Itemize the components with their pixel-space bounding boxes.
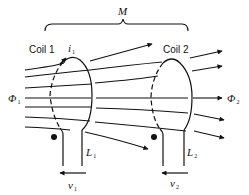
flux-lines bbox=[25, 44, 224, 149]
voltage-v2-label: v2 bbox=[170, 178, 179, 190]
mutual-inductance-label: M bbox=[118, 6, 127, 17]
diagram-graphics bbox=[0, 0, 249, 195]
mutual-brace bbox=[45, 19, 188, 31]
voltage-v1-label: v1 bbox=[68, 180, 77, 192]
coil-2-label: Coil 2 bbox=[163, 45, 189, 55]
polarity-dot-2 bbox=[151, 134, 157, 140]
mutual-inductance-diagram: M Coil 1 i1 Coil 2 Φ1 Φ2 L1 L2 v1 v2 bbox=[0, 0, 249, 195]
flux-phi1-label: Φ1 bbox=[8, 93, 20, 105]
current-i1-label: i1 bbox=[68, 43, 75, 55]
inductance-l2-label: L2 bbox=[187, 147, 197, 159]
polarity-dot-1 bbox=[51, 134, 57, 140]
flux-phi2-label: Φ2 bbox=[227, 93, 239, 105]
coil-1-label: Coil 1 bbox=[29, 45, 55, 55]
inductance-l1-label: L1 bbox=[86, 147, 96, 159]
